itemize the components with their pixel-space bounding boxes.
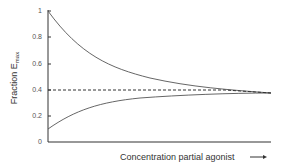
ytick-label: 0.6 [32, 60, 42, 67]
ytick-label: 0.8 [32, 33, 42, 40]
right-arrow-icon [250, 155, 267, 159]
x-axis-title: Concentration partial agonist [120, 152, 235, 162]
chart: 1 0.8 0.6 0.4 0.2 0 Fraction Emax Concen… [0, 0, 283, 167]
increasing-curve [48, 93, 271, 129]
ytick-label: 0.4 [32, 86, 42, 93]
svg-text:Fraction Emax: Fraction Emax [9, 52, 20, 104]
y-axis-title-main: Fraction E [9, 63, 19, 104]
ytick-label: 0.2 [32, 112, 42, 119]
ytick-label: 0 [38, 138, 42, 145]
decreasing-curve [48, 11, 271, 93]
ytick-label: 1 [38, 7, 42, 14]
y-axis-title-subscript: max [14, 52, 20, 63]
y-axis-title: Fraction Emax [9, 52, 20, 104]
